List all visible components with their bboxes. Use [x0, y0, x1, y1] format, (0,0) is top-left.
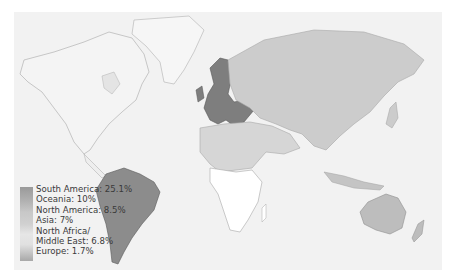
region-uk — [196, 86, 204, 102]
legend-item-north-america: North America: 8.5% — [36, 205, 132, 215]
legend-item-north-africa: North Africa/ — [36, 226, 132, 236]
legend-labels: South America: 25.1% Oceania: 10% North … — [36, 184, 132, 257]
map-panel: South America: 25.1% Oceania: 10% North … — [14, 12, 442, 270]
legend-item-south-america: South America: 25.1% — [36, 184, 132, 194]
legend-item-europe: Europe: 1.7% — [36, 246, 132, 256]
region-sub-saharan-africa — [210, 168, 262, 232]
region-north-africa-middle-east — [200, 122, 300, 172]
legend: South America: 25.1% Oceania: 10% North … — [20, 184, 180, 264]
region-australia — [360, 194, 406, 234]
region-central-america — [84, 154, 106, 178]
region-indonesia — [324, 172, 384, 190]
legend-item-oceania: Oceania: 10% — [36, 194, 132, 204]
region-madagascar — [262, 204, 266, 222]
region-japan — [386, 102, 398, 128]
legend-item-asia: Asia: 7% — [36, 215, 132, 225]
region-north-america — [20, 32, 149, 154]
legend-item-middle-east: Middle East: 6.8% — [36, 236, 132, 246]
region-new-zealand — [412, 220, 424, 242]
legend-gradient-bar — [20, 187, 33, 261]
